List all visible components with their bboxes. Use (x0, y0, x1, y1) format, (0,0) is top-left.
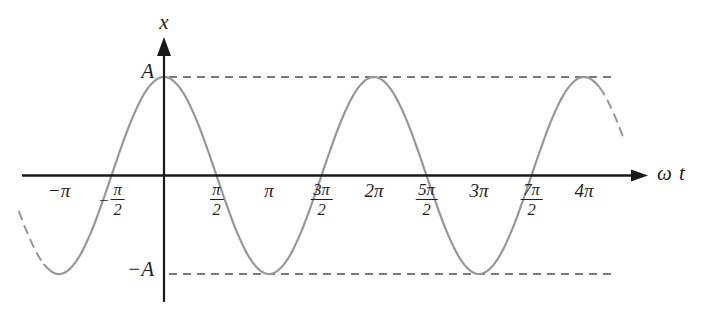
x-tick-label-0_5pi: π2 (209, 181, 223, 220)
fraction-denominator: 2 (114, 200, 122, 220)
fraction: 7π2 (520, 181, 543, 220)
minus-sign: − (98, 192, 109, 209)
fraction-numerator: 7π (520, 181, 543, 200)
x-tick-label-3_5pi: 7π2 (520, 181, 543, 220)
fraction-denominator: 2 (317, 200, 325, 220)
x-tick-label-2pi: 2π (364, 181, 383, 200)
fraction-numerator: π (209, 181, 223, 200)
x-tick-label-1_5pi: 3π2 (310, 181, 333, 220)
fraction-numerator: π (111, 181, 125, 200)
oscillation-graph: x ω t A −A −π−π2π2π3π22π5π23π7π24π (0, 0, 703, 315)
fraction-numerator: 3π (310, 181, 333, 200)
fraction-denominator: 2 (527, 200, 535, 220)
fraction-numerator: 5π (415, 181, 438, 200)
fraction: 5π2 (415, 181, 438, 220)
x-tick-label-4pi: 4π (574, 181, 593, 200)
x-tick-label-3pi: 3π (469, 181, 488, 200)
fraction: π2 (111, 181, 125, 220)
fraction: π2 (209, 181, 223, 220)
fraction-denominator: 2 (212, 200, 220, 220)
x-tick-labels: −π−π2π2π3π22π5π23π7π24π (0, 0, 703, 315)
x-tick-label-2_5pi: 5π2 (415, 181, 438, 220)
fraction-denominator: 2 (422, 200, 430, 220)
x-tick-label-1pi: π (264, 181, 274, 200)
x-tick-label--0_5pi: −π2 (98, 181, 125, 220)
fraction: 3π2 (310, 181, 333, 220)
x-tick-label--1pi: −π (48, 181, 70, 200)
